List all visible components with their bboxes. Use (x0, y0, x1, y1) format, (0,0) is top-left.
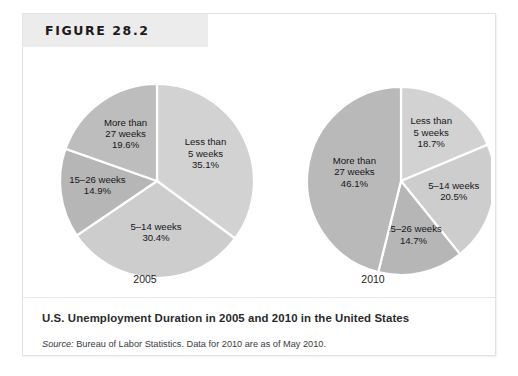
source-text: Bureau of Labor Statistics. Data for 201… (74, 339, 326, 349)
source-prefix: Source: (42, 339, 74, 349)
figure-number-label: FIGURE 28.2 (45, 23, 150, 38)
figure-caption-title: U.S. Unemployment Duration in 2005 and 2… (42, 312, 482, 324)
charts-area: Less than5 weeks35.1%5–14 weeks30.4%15–2… (23, 47, 495, 297)
pie-svg-2005: Less than5 weeks35.1%5–14 weeks30.4%15–2… (27, 47, 263, 297)
caption-divider (23, 297, 495, 298)
pie-chart-2005: Less than5 weeks35.1%5–14 weeks30.4%15–2… (27, 47, 263, 297)
pie-year-label-2005: 2005 (27, 273, 263, 285)
pie-chart-2010: Less than5 weeks18.7%5–14 weeks20.5%15–2… (255, 47, 491, 297)
pie-year-label-2010: 2010 (255, 273, 491, 285)
figure-source-note: Source: Bureau of Labor Statistics. Data… (42, 339, 482, 349)
figure-frame: FIGURE 28.2 Less than5 weeks35.1%5–14 we… (22, 13, 496, 356)
pie-svg-2010: Less than5 weeks18.7%5–14 weeks20.5%15–2… (255, 47, 491, 297)
